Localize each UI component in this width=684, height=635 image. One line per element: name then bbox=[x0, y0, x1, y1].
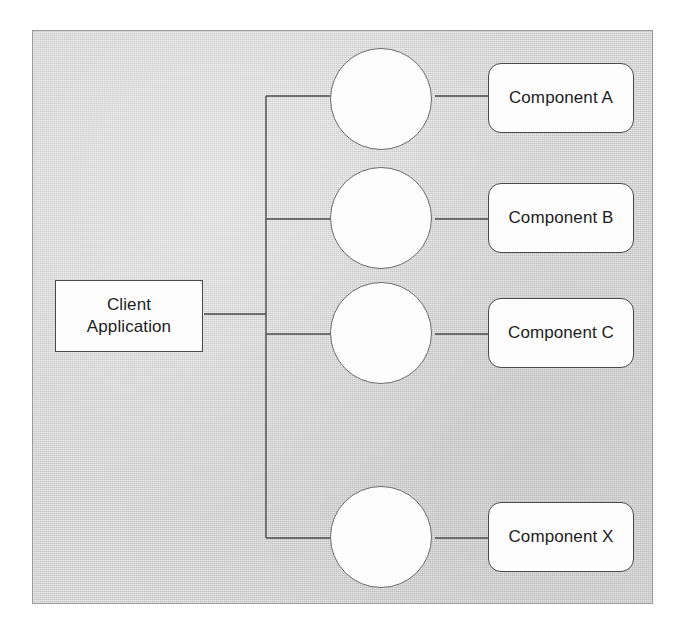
interface-circle-x[interactable] bbox=[330, 486, 432, 588]
component-label-b: Component B bbox=[488, 183, 634, 253]
component-label-x: Component X bbox=[488, 502, 634, 572]
figure-root: Client Application Component A Component… bbox=[0, 0, 684, 635]
interface-circle-b[interactable] bbox=[330, 167, 432, 269]
interface-circle-c[interactable] bbox=[330, 282, 432, 384]
interface-circle-a[interactable] bbox=[330, 48, 432, 150]
component-label-c: Component C bbox=[488, 298, 634, 368]
component-label-a: Component A bbox=[488, 63, 634, 133]
client-application-label: Client Application bbox=[55, 280, 203, 352]
